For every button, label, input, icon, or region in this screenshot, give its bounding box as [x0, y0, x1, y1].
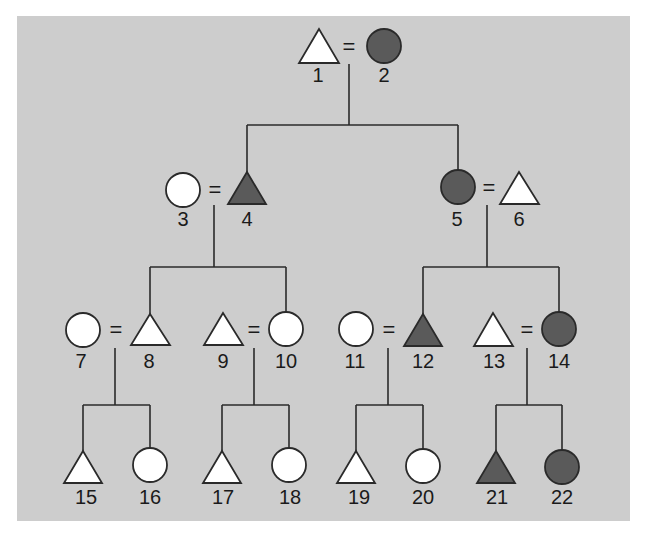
label-3: 3 — [177, 208, 188, 230]
label-11: 11 — [345, 350, 366, 372]
individual-15-male-triangle-icon — [64, 451, 102, 483]
label-15: 15 — [75, 486, 97, 508]
individual-4-male-affected-triangle-icon — [228, 172, 266, 204]
marriage-symbol-1-2: = — [343, 34, 356, 59]
label-6: 6 — [513, 208, 524, 230]
individual-17-male-triangle-icon — [203, 451, 241, 483]
label-21: 21 — [486, 486, 508, 508]
label-18: 18 — [279, 486, 301, 508]
individual-14-female-affected-circle-icon — [542, 312, 576, 346]
marriage-symbol-5-6: = — [483, 175, 496, 200]
label-12: 12 — [412, 350, 434, 372]
label-7: 7 — [75, 350, 86, 372]
label-9: 9 — [217, 350, 228, 372]
label-14: 14 — [548, 350, 570, 372]
label-4: 4 — [241, 208, 252, 230]
individual-11-female-circle-icon — [339, 312, 373, 346]
label-19: 19 — [348, 486, 370, 508]
individual-5-female-affected-circle-icon — [441, 170, 475, 204]
label-17: 17 — [212, 486, 234, 508]
label-2: 2 — [378, 64, 389, 86]
marriage-symbol-13-14: = — [521, 317, 534, 342]
marriage-symbol-11-12: = — [383, 317, 396, 342]
individual-19-male-triangle-icon — [337, 451, 375, 483]
label-16: 16 — [139, 486, 161, 508]
individual-16-female-circle-icon — [133, 448, 167, 482]
individual-6-male-triangle-icon — [500, 172, 539, 204]
individual-22-female-affected-circle-icon — [545, 450, 579, 484]
label-13: 13 — [483, 350, 505, 372]
individual-2-female-affected-circle-icon — [367, 29, 401, 63]
individual-1-male-triangle-icon — [299, 29, 339, 63]
label-1: 1 — [312, 64, 323, 86]
individual-3-female-circle-icon — [166, 173, 200, 207]
individual-8-male-triangle-icon — [131, 314, 170, 345]
label-20: 20 — [412, 486, 434, 508]
label-5: 5 — [451, 208, 462, 230]
individual-13-male-triangle-icon — [474, 313, 513, 346]
individual-18-female-circle-icon — [272, 448, 306, 482]
marriage-symbol-3-4: = — [209, 177, 222, 202]
individual-12-male-affected-triangle-icon — [404, 314, 442, 346]
connector-lines — [83, 64, 562, 451]
individual-20-female-circle-icon — [406, 449, 440, 483]
individual-7-female-circle-icon — [66, 313, 100, 347]
marriage-symbol-9-10: = — [248, 317, 261, 342]
marriage-symbol-7-8: = — [110, 317, 123, 342]
pedigree-chart: = = = = = = = 1 2 3 4 5 6 7 8 9 10 11 12… — [0, 0, 645, 533]
label-8: 8 — [143, 350, 154, 372]
label-22: 22 — [551, 486, 573, 508]
individual-10-female-circle-icon — [269, 312, 303, 346]
individual-9-male-triangle-icon — [204, 313, 243, 345]
individual-21-male-affected-triangle-icon — [477, 451, 515, 483]
label-10: 10 — [275, 350, 297, 372]
